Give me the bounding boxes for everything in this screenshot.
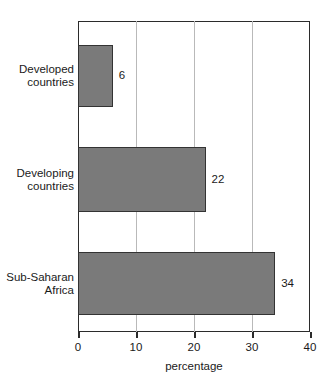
category-label: Developedcountries bbox=[0, 63, 74, 89]
tick-mark-0 bbox=[78, 332, 80, 338]
category-label-line: Sub-Saharan bbox=[2, 271, 74, 284]
tick-label-0: 0 bbox=[63, 341, 93, 354]
category-label-line: countries bbox=[2, 180, 74, 193]
tick-label-10: 10 bbox=[121, 341, 151, 354]
tick-label-30: 30 bbox=[237, 341, 267, 354]
category-label: Sub-SaharanAfrica bbox=[0, 271, 74, 297]
tick-mark-10 bbox=[136, 332, 138, 338]
category-label-line: Developed bbox=[2, 63, 74, 76]
bar bbox=[78, 45, 113, 107]
tick-mark-30 bbox=[252, 332, 254, 338]
bar-chart: 62234 DevelopedcountriesDevelopingcountr… bbox=[0, 0, 336, 385]
bar-value-label: 22 bbox=[212, 174, 225, 186]
bar-value-label: 6 bbox=[119, 70, 125, 82]
bar bbox=[78, 147, 206, 212]
category-label: Developingcountries bbox=[0, 167, 74, 193]
tick-mark-20 bbox=[194, 332, 196, 338]
bar-value-label: 34 bbox=[281, 278, 294, 290]
category-label-line: Developing bbox=[2, 167, 74, 180]
x-axis-title: percentage bbox=[78, 360, 310, 373]
category-label-line: Africa bbox=[2, 284, 74, 297]
tick-mark-40 bbox=[310, 332, 312, 338]
bar bbox=[78, 252, 275, 315]
tick-label-40: 40 bbox=[295, 341, 325, 354]
tick-label-20: 20 bbox=[179, 341, 209, 354]
category-label-line: countries bbox=[2, 76, 74, 89]
